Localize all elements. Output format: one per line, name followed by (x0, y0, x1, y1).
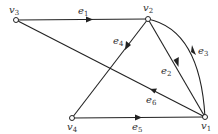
svg-text:v1: v1 (201, 120, 211, 133)
svg-text:v4: v4 (67, 121, 78, 133)
vertex-node-icon (146, 17, 151, 22)
edge-label-sub: 3 (204, 50, 208, 58)
edge-e1: e1 (16, 5, 148, 23)
vertex-v3: v3 (9, 4, 19, 23)
vertex-node-icon (14, 18, 19, 23)
vertex-node-icon (70, 116, 75, 121)
vertex-v1: v1 (201, 115, 211, 134)
svg-text:e3: e3 (198, 45, 208, 58)
edge-label-sub: 4 (119, 40, 124, 48)
svg-text:e1: e1 (78, 5, 88, 18)
edge-label-sub: 2 (167, 70, 171, 78)
svg-text:e2: e2 (161, 65, 171, 78)
arrow-icon (135, 115, 142, 121)
arrow-icon (174, 57, 179, 67)
vertex-label-sub: 3 (15, 9, 19, 17)
vertex-node-icon (203, 115, 208, 120)
arrow-icon (150, 89, 157, 94)
svg-text:e6: e6 (146, 94, 157, 107)
vertex-label-sub: 4 (73, 126, 78, 133)
arrow-icon (191, 45, 196, 55)
svg-text:v2: v2 (143, 2, 153, 15)
edge-e5: e5 (72, 115, 205, 134)
edge-label-sub: 5 (138, 126, 142, 133)
vertex-label-sub: 2 (149, 7, 153, 15)
svg-text:e4: e4 (113, 35, 124, 48)
vertex-label-sub: 1 (207, 125, 211, 133)
edge-label-sub: 1 (84, 10, 88, 18)
svg-text:v3: v3 (9, 4, 19, 17)
directed-graph: e1 e2 e3 e4 e5 e6 v3 v2 v4 v1 (0, 0, 218, 133)
edge-label-sub: 6 (152, 99, 157, 107)
svg-text:e5: e5 (132, 121, 142, 133)
